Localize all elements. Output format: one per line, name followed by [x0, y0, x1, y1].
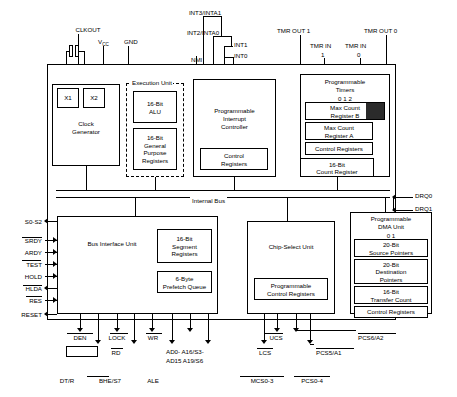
arrow-ardy — [53, 249, 57, 255]
lead-tmr-out-1 — [300, 35, 301, 64]
label-s0-s2: S0-S2 — [2, 218, 42, 225]
arrow-hold — [53, 273, 57, 279]
arrow-reset — [44, 311, 48, 317]
arrow-ad — [205, 340, 211, 344]
label-pcs0-4: PCS0-4 — [292, 377, 332, 384]
arrow-rd — [114, 328, 120, 332]
lead-drq-join — [393, 197, 394, 210]
block-diagram: CLKOUT VCC GND INT3/INTA1 INT2/INTA0 INT… — [0, 0, 457, 397]
max-count-register-a-box: Max CountRegister A — [305, 122, 373, 140]
lead-int1-h — [224, 46, 233, 47]
conn-timer-bus — [337, 177, 338, 190]
conn-bus-dma — [385, 197, 386, 212]
timer-highlight-block — [366, 103, 384, 119]
lead-x1 — [66, 51, 67, 64]
arrow-ucs — [274, 328, 280, 332]
label-mcs0-3: MCS0-3 — [240, 377, 284, 384]
timer-index-label: 0 1 2 — [300, 95, 390, 102]
overbar-mcs — [240, 376, 284, 377]
lock-outline — [66, 346, 98, 357]
label-ucs: UCS — [258, 334, 294, 341]
arrow-s0s2 — [44, 218, 48, 224]
label-den: DEN — [62, 334, 98, 341]
chip-select-unit-label: Chip-Select Unit — [247, 243, 335, 250]
lead-nmi — [196, 56, 197, 64]
lead-gnd — [128, 46, 129, 64]
clock-generator-label: ClockGenerator — [52, 120, 120, 136]
internal-bus-label: Internal Bus — [190, 197, 227, 204]
x2-box: X2 — [83, 88, 105, 108]
overbar-res — [26, 296, 42, 297]
label-reset: RESET — [2, 311, 42, 318]
arrow-srdy — [53, 237, 57, 243]
overbar-lcs — [257, 348, 273, 349]
label-tmr-in-1-num: 1 — [321, 51, 324, 58]
chip-select-unit-box — [247, 221, 335, 314]
overbar-bhe — [87, 376, 109, 377]
overbar-wr — [110, 333, 128, 334]
label-int0: INT0 — [234, 52, 247, 59]
overbar-den — [67, 333, 93, 334]
conn-clock-bus — [86, 166, 87, 190]
label-int3-inta1: INT3/INTA1 — [170, 9, 240, 16]
x1-box: X1 — [57, 88, 79, 108]
label-drq1: DRQ1 — [415, 205, 432, 212]
conn-exec-bus — [155, 177, 156, 190]
label-tmr-in-0-num: 0 — [357, 51, 360, 58]
timer-control-registers-box: Control Registers — [305, 142, 373, 155]
label-tmr-in-1: TMR IN — [310, 42, 331, 49]
count-register-box: 16-BitCount Register — [300, 158, 374, 177]
arrow-ale — [187, 328, 193, 332]
lead-vcc — [103, 46, 104, 64]
arrow-den — [77, 328, 83, 332]
overbar-pcs5 — [316, 348, 354, 349]
label-hlda: HLDA — [2, 285, 42, 292]
conn-bus-cs — [287, 197, 288, 221]
label-ad0-a16: AD0- A16/S3- — [166, 348, 204, 355]
bus-interface-unit-label: Bus Interface Unit — [57, 240, 167, 247]
lead-drq1 — [393, 210, 413, 211]
label-pcs5-a1: PCS5/A1 — [316, 349, 341, 356]
overbar-srdy — [22, 237, 42, 238]
segment-registers-box: 16-BitSegmentRegisters — [157, 229, 212, 263]
interrupt-controller-label: ProgrammableInterruptController — [193, 107, 276, 131]
overbar-ucs — [265, 333, 283, 334]
overbar-hlda — [23, 285, 42, 286]
label-tmr-out-1: TMR OUT 1 — [277, 27, 310, 34]
label-srdy: SRDY — [2, 237, 42, 244]
lead-x2 — [84, 51, 85, 64]
conn-pic-bus — [234, 177, 235, 190]
lead-int0 — [224, 57, 225, 64]
conn-bus-biu — [135, 197, 136, 216]
lead-int0-h — [224, 57, 233, 58]
lead-x1-h — [66, 51, 70, 52]
label-clkout: CLKOUT — [58, 26, 118, 33]
label-dtr: DT/R — [48, 377, 86, 384]
lead-x2-h — [78, 51, 85, 52]
overbar-test — [22, 260, 41, 261]
lead-pcs5-h — [310, 344, 314, 345]
label-lcs: LCS — [250, 349, 280, 356]
internal-bus-line-top — [56, 190, 390, 191]
pic-control-registers-box: ControlRegisters — [200, 148, 268, 170]
lead-int3-v2 — [221, 16, 222, 36]
label-hold: HOLD — [2, 273, 42, 280]
label-wr: LOCK — [100, 334, 134, 341]
label-ale: ALE — [135, 377, 171, 384]
prefetch-queue-box: 6-BytePrefetch Queue — [157, 271, 212, 293]
lead-pcs5 — [310, 314, 311, 342]
label-res: RES — [2, 297, 42, 304]
label-bhe-s7: BHE/S7 — [87, 377, 133, 384]
cs-control-registers-box: ProgrammableControl Registers — [254, 278, 328, 300]
lead-drq0 — [393, 197, 413, 198]
lead-int2-h — [213, 36, 231, 37]
arrow-wr — [149, 328, 155, 332]
lead-tmr-in-1 — [324, 58, 325, 64]
label-test: TEST — [2, 261, 42, 268]
label-pcs6-a2: PCS6/A2 — [358, 334, 383, 341]
label-wr2: WR — [136, 334, 170, 341]
label-drq0: DRQ0 — [415, 192, 432, 199]
label-tmr-out-0: TMR OUT 0 — [364, 27, 397, 34]
timers-label: ProgrammableTimers — [300, 78, 390, 94]
label-int1: INT1 — [234, 41, 247, 48]
